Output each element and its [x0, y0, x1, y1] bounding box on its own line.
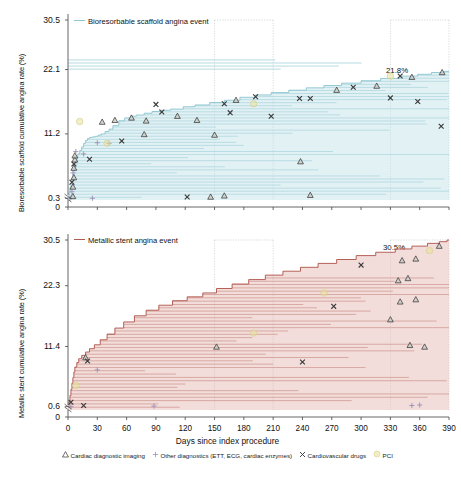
x-tick-label: 240 — [289, 424, 315, 433]
marker-legend-label: Other diagnostics (ETT, ECG, cardiac enz… — [160, 452, 292, 459]
y-tick-label: 0 — [20, 412, 60, 422]
x-tick-label: 270 — [319, 424, 345, 433]
x-tick-label: 150 — [202, 424, 228, 433]
marker-legend-item-circle: PCI — [373, 450, 393, 459]
y-tick-label: 0.3 — [20, 193, 60, 203]
event-marker-triangle — [112, 117, 118, 122]
x-tick-label: 60 — [114, 424, 140, 433]
x-tick-label: 360 — [407, 424, 433, 433]
x-tick-label: 90 — [143, 424, 169, 433]
event-marker-circle — [73, 382, 79, 388]
plus-icon — [152, 451, 159, 459]
marker-legend-label: Cardiovascular drugs — [308, 452, 366, 459]
x-tick-label: 0 — [55, 424, 81, 433]
x-tick-label: 300 — [348, 424, 374, 433]
y-tick-label: 30.5 — [20, 235, 60, 245]
marker-legend-item-triangle: Cardiac diagnostic imaging — [62, 451, 145, 459]
y-tick-label: 0 — [20, 202, 60, 212]
marker-legend-item-cross: Cardiovascular drugs — [299, 451, 366, 459]
event-marker-circle — [104, 140, 110, 146]
x-tick-label: 180 — [231, 424, 257, 433]
marker-legend: Cardiac diagnostic imagingOther diagnost… — [0, 450, 455, 459]
x-tick-label: 210 — [260, 424, 286, 433]
x-tick-label: 120 — [172, 424, 198, 433]
y-tick-label: 22.1 — [20, 64, 60, 74]
x-axis-title: Days since index procedure — [0, 436, 455, 446]
event-marker-triangle — [99, 119, 105, 124]
y-tick-label: 11.4 — [20, 341, 60, 351]
event-marker-circle — [426, 247, 432, 253]
triangle-icon — [62, 451, 69, 459]
x-tick-label: 30 — [84, 424, 110, 433]
marker-legend-item-plus: Other diagnostics (ETT, ECG, cardiac enz… — [152, 451, 292, 459]
x-tick-label: 330 — [377, 424, 403, 433]
y-tick-label: 30.5 — [20, 15, 60, 25]
event-marker-circle — [250, 101, 256, 107]
event-marker-circle — [250, 330, 256, 336]
cross-icon — [299, 451, 306, 459]
y-tick-label: 11.2 — [20, 128, 60, 138]
event-marker-triangle — [72, 153, 78, 158]
event-marker-circle — [77, 118, 83, 124]
y-tick-label: 0.6 — [20, 401, 60, 411]
event-marker-circle — [387, 73, 393, 79]
circle-icon — [373, 450, 381, 459]
x-tick-label: 390 — [436, 424, 461, 433]
marker-legend-label: PCI — [383, 452, 393, 459]
marker-legend-label: Cardiac diagnostic imaging — [71, 452, 145, 459]
event-marker-cross — [154, 102, 159, 107]
event-marker-circle — [321, 290, 327, 296]
y-tick-label: 22.3 — [20, 280, 60, 290]
